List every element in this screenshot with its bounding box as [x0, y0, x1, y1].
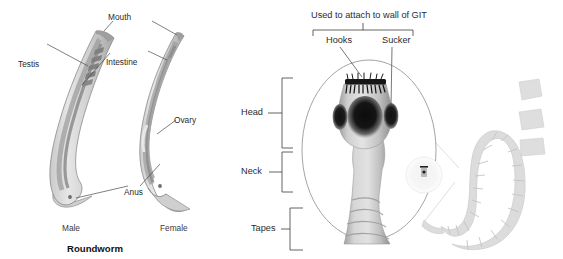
- proglottid-segment: [520, 138, 545, 156]
- central-sucker: [347, 96, 383, 138]
- detached-proglottids: [519, 79, 545, 156]
- label-head: Head: [241, 108, 263, 117]
- label-testis: Testis: [18, 60, 39, 68]
- proglottid-segment: [519, 109, 544, 130]
- label-tapes: Tapes: [251, 224, 276, 233]
- male-anus-point: [68, 195, 72, 199]
- caption-female: Female: [160, 224, 188, 232]
- diagram-canvas: Mouth Testis Intestine Ovary Anus Male F…: [0, 0, 563, 259]
- caption-roundworm-title: Roundworm: [67, 244, 123, 254]
- artwork-layer: [0, 0, 563, 259]
- label-mouth: Mouth: [108, 13, 131, 21]
- mini-sucker: [422, 170, 425, 173]
- proglottid-segment: [519, 79, 542, 100]
- male-roundworm-figure: [50, 31, 114, 207]
- label-hooks: Hooks: [326, 36, 352, 45]
- rostellum-band: [345, 79, 386, 85]
- label-sucker: Sucker: [382, 36, 411, 45]
- caption-male: Male: [62, 224, 80, 232]
- female-anus-point: [158, 184, 162, 188]
- tapeworm-magnified-view: [302, 60, 459, 244]
- label-ovary: Ovary: [174, 116, 196, 124]
- tapeworm-anterior-neck: [422, 220, 444, 234]
- mini-hooks: [420, 166, 428, 168]
- label-neck: Neck: [241, 167, 262, 176]
- label-anus: Anus: [124, 188, 143, 196]
- label-git-attachment: Used to attach to wall of GIT: [311, 11, 427, 20]
- label-intestine: Intestine: [106, 58, 137, 66]
- left-sucker: [333, 104, 348, 130]
- tapeworm-strobila-curve: [441, 131, 525, 250]
